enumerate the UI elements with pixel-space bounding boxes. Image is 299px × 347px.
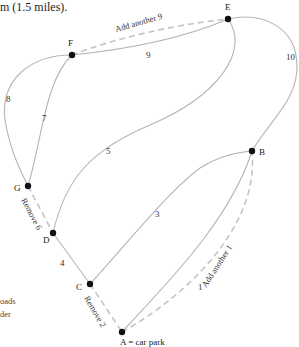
edge-label-4: 4 — [60, 258, 65, 268]
annotation-remove-2: Remove 2 — [82, 294, 108, 329]
annotation-add-another-1: Add another 1 — [199, 243, 234, 289]
edge-label-3: 3 — [155, 209, 160, 219]
edge-label-5: 5 — [106, 146, 111, 156]
edge-c-b-3 — [90, 151, 252, 284]
node-label-a: A = car park — [120, 337, 165, 347]
edge-c-d-4 — [53, 233, 90, 284]
node-label-e: E — [225, 2, 231, 12]
edge-label-8: 8 — [6, 94, 11, 104]
node-label-f: F — [68, 38, 73, 48]
edge-f-g-7 — [28, 55, 72, 186]
edge-label-7: 7 — [42, 113, 47, 123]
node-e — [225, 16, 231, 22]
node-b — [249, 148, 255, 154]
route-network-diagram: 9 10 8 7 5 3 4 1 Add another 9 Add anoth… — [0, 0, 299, 347]
edge-label-9: 9 — [146, 50, 151, 60]
node-d — [50, 230, 56, 236]
annotation-add-another-9: Add another 9 — [114, 11, 164, 34]
edge-e-b-10 — [228, 17, 297, 151]
edge-d-e-5 — [53, 19, 235, 233]
node-label-c: C — [76, 282, 82, 292]
node-a — [119, 329, 125, 335]
edge-f-g-8 — [4, 55, 72, 186]
node-g — [25, 183, 31, 189]
annotation-remove-6: Remove 6 — [19, 196, 44, 231]
node-label-g: G — [14, 183, 21, 193]
edge-label-10: 10 — [286, 52, 296, 62]
node-f — [69, 52, 75, 58]
node-label-b: B — [259, 147, 265, 157]
node-c — [87, 281, 93, 287]
node-label-d: D — [43, 235, 50, 245]
